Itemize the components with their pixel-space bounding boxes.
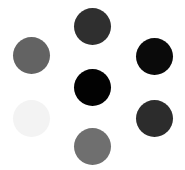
dot-center [74,69,111,106]
dot-bottom [74,128,111,165]
dot-lower-right [136,100,173,137]
dot-upper-right [136,38,173,75]
dot-lower-left [13,100,50,137]
dot-pattern-canvas [0,0,185,170]
dot-upper-left [13,37,50,74]
dot-top [74,8,111,45]
